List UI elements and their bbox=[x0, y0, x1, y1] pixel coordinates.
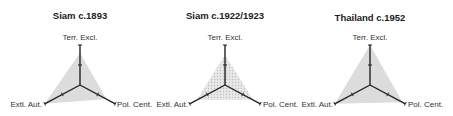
axis-label-extl-aut: Extl. Aut. bbox=[156, 100, 188, 109]
axis-label-extl-aut: Extl. Aut. bbox=[10, 100, 42, 109]
chart-title: Siam c.1922/1923 bbox=[186, 10, 264, 21]
chart-title: Siam c.1893 bbox=[53, 10, 107, 21]
axis-label-terr-excl: Terr. Excl. bbox=[352, 33, 387, 42]
data-area bbox=[335, 45, 403, 104]
axis-label-terr-excl: Terr. Excl. bbox=[207, 33, 242, 42]
axis-label-terr-excl: Terr. Excl. bbox=[62, 33, 97, 42]
radar-chart-3: Thailand c.1952 Terr. Excl. Pol. Cent. E… bbox=[301, 12, 443, 109]
radar-chart-2: Siam c.1922/1923 Terr. Excl. Pol. Cent. … bbox=[156, 10, 298, 109]
radar-chart-1: Siam c.1893 Terr. Excl. Pol. Cent. Extl.… bbox=[10, 10, 152, 109]
axis-label-pol-cent: Pol. Cent. bbox=[263, 100, 298, 109]
axis-label-extl-aut: Extl. Aut. bbox=[301, 100, 333, 109]
radar-charts-figure: Siam c.1893 Terr. Excl. Pol. Cent. Extl.… bbox=[0, 0, 453, 116]
chart-title: Thailand c.1952 bbox=[335, 12, 406, 23]
axis-label-pol-cent: Pol. Cent. bbox=[117, 100, 152, 109]
axis-label-pol-cent: Pol. Cent. bbox=[408, 100, 443, 109]
